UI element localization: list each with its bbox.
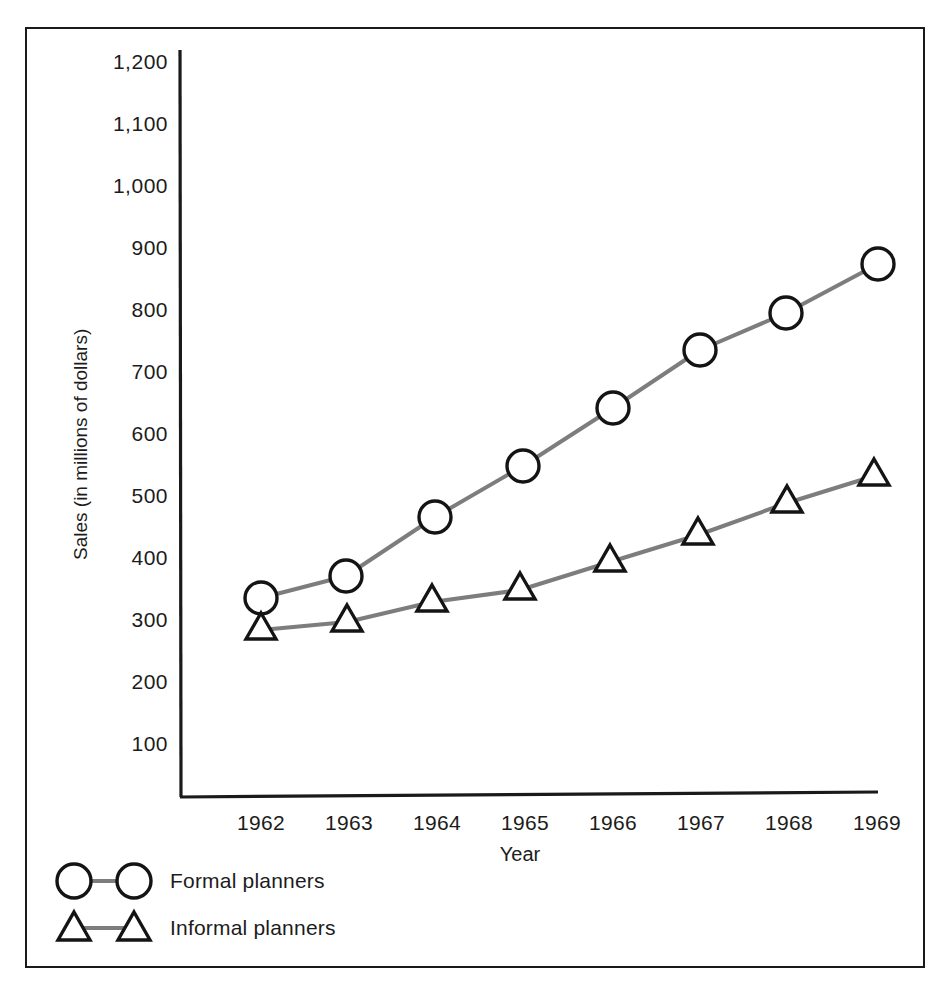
data-point-formal-1964 — [419, 501, 451, 533]
series-markers-informal-planners — [246, 459, 889, 639]
legend-circle-right — [117, 864, 151, 898]
data-point-informal-1969 — [859, 459, 889, 485]
legend-marker-formal-planners — [57, 864, 151, 898]
data-point-formal-1967 — [684, 334, 716, 366]
data-point-informal-1964 — [417, 585, 447, 611]
legend-marker-informal-planners — [58, 912, 150, 940]
data-point-formal-1966 — [597, 392, 629, 424]
data-point-formal-1962 — [245, 582, 277, 614]
plot-svg — [0, 0, 941, 1006]
data-point-informal-1962 — [246, 613, 276, 639]
y-axis-line — [180, 50, 181, 797]
legend-circle-left — [57, 864, 91, 898]
data-point-formal-1963 — [330, 560, 362, 592]
chart-figure: 1,200 1,100 1,000 900 800 700 600 500 40… — [0, 0, 941, 1006]
series-markers-formal-planners — [245, 248, 894, 614]
data-point-formal-1969 — [862, 248, 894, 280]
x-axis-line — [180, 792, 878, 797]
data-point-formal-1968 — [770, 297, 802, 329]
data-point-formal-1965 — [507, 450, 539, 482]
